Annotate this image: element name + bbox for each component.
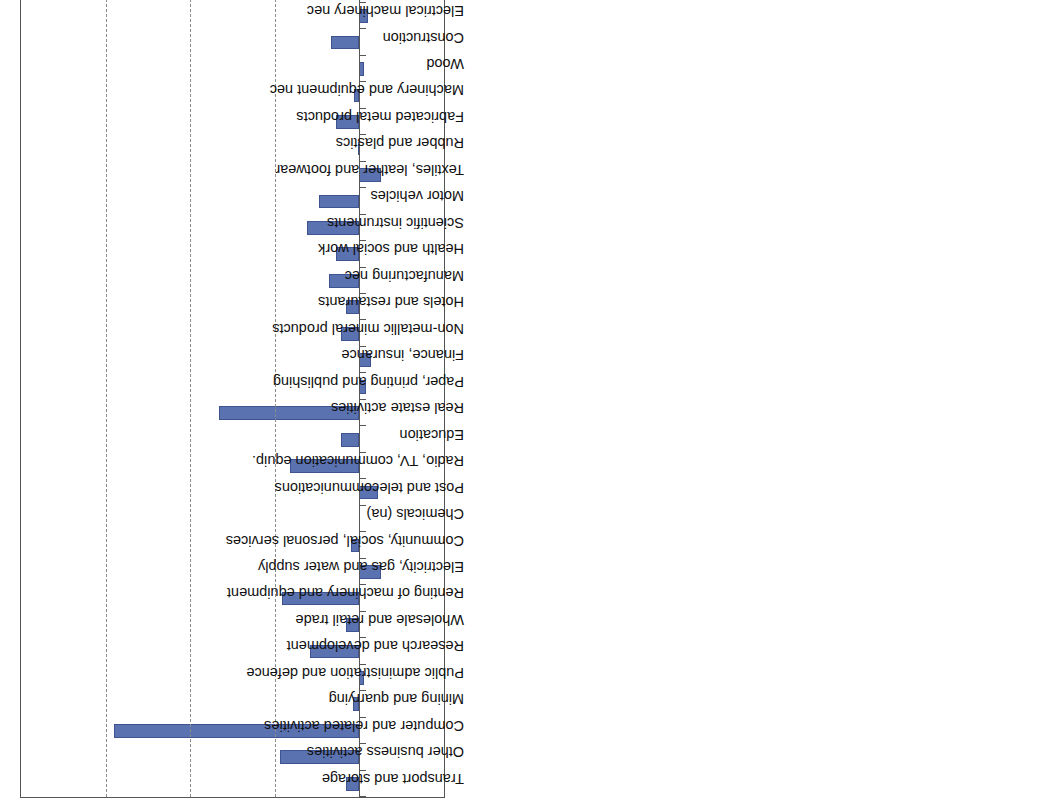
gridline — [106, 0, 107, 797]
category-tick — [359, 505, 366, 506]
category-label: Research and development — [287, 638, 464, 654]
category-label: Community, social, personal services — [226, 533, 464, 549]
category-label: Non-metallic mineral products — [272, 321, 464, 337]
category-label: Manufacturing nec — [345, 268, 464, 284]
category-label: Rubber and plastics — [336, 135, 464, 151]
category-label: Transport and storage — [322, 771, 464, 787]
category-label: Fabricated metal products — [296, 109, 464, 125]
category-tick — [359, 796, 366, 797]
category-label: Motor vehicles — [371, 188, 464, 204]
category-label: Scientific instruments — [327, 215, 464, 231]
category-tick — [359, 55, 366, 56]
category-label: Other business activities — [307, 744, 464, 760]
category-label: Real estate activities — [331, 400, 464, 416]
category-tick — [359, 187, 366, 188]
category-label: Public administration and defence — [246, 665, 464, 681]
category-label: Health and social work — [318, 241, 464, 257]
chart-stage: -50050100150200% Transport and storageOt… — [0, 0, 460, 808]
category-label: Finance, insurance — [341, 347, 464, 363]
category-label: Mining and quarrying — [329, 691, 464, 707]
category-label: Textiles, leather and footwear — [275, 162, 464, 178]
category-label: Renting of machinery and equipment — [227, 585, 464, 601]
category-label: Education — [400, 427, 465, 443]
category-label: Radio, TV, communication equip. — [252, 453, 464, 469]
category-label: Electricity, gas and water supply — [258, 559, 464, 575]
category-tick — [359, 28, 366, 29]
category-label: Wood — [426, 56, 464, 72]
bar — [319, 195, 360, 209]
category-tick — [359, 425, 366, 426]
category-label: Machinery and equipment nec — [270, 83, 464, 99]
chart-page: -50050100150200% Transport and storageOt… — [0, 0, 1055, 808]
category-label: Hotels and restaurants — [318, 294, 464, 310]
category-label: Electrical machinery nec — [307, 3, 464, 19]
category-label: Paper, printing and publishing — [273, 374, 464, 390]
category-label: Post and telecommunications — [275, 480, 464, 496]
bar — [341, 433, 360, 447]
category-label: Computer and related activities — [264, 718, 464, 734]
category-label: Wholesale and retail trade — [296, 612, 464, 628]
category-label: Chemicals (na) — [367, 506, 465, 522]
gridline — [190, 0, 191, 797]
bar — [331, 36, 360, 50]
category-label: Construction — [383, 30, 464, 46]
